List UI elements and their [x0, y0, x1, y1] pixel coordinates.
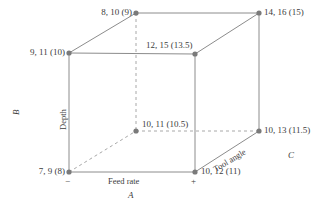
cube-solid-edges [69, 13, 259, 172]
cube-vertices [66, 10, 261, 174]
edge-label-depth: Depth [59, 109, 68, 130]
vertex-front-bottom-left[interactable] [66, 169, 71, 174]
sign-high-a: + [191, 177, 196, 186]
vertex-label-back-bottom-left: 10, 11 (10.5) [142, 120, 188, 129]
edge-depth-top-right [195, 13, 259, 54]
edge-depth-top-left [69, 13, 136, 53]
axis-label-c: C [288, 151, 294, 160]
edge-front-top [69, 53, 195, 54]
vertex-front-bottom-right[interactable] [192, 169, 197, 174]
vertex-back-bottom-left[interactable] [133, 128, 138, 133]
vertex-label-back-bottom-right: 10, 13 (11.5) [264, 126, 310, 135]
vertex-back-top-left[interactable] [133, 10, 138, 15]
vertex-label-front-bottom-left: 7, 9 (8) [0, 167, 65, 176]
edge-label-feed-rate: Feed rate [108, 177, 139, 186]
vertex-front-top-left[interactable] [66, 50, 71, 55]
vertex-label-back-top-right: 14, 16 (15) [264, 8, 304, 17]
edge-depth-bottom-left-hidden [69, 131, 136, 172]
figure-canvas: 8, 10 (9) 14, 16 (15) 9, 11 (10) 12, 15 … [0, 0, 326, 204]
cube-hidden-edges [69, 13, 259, 172]
axis-label-b: B [12, 110, 21, 116]
vertex-back-bottom-right[interactable] [256, 128, 261, 133]
vertex-label-front-top-left: 9, 11 (10) [0, 48, 65, 57]
sign-low-a: − [65, 177, 70, 186]
vertex-label-front-top-right: 12, 15 (13.5) [146, 41, 193, 50]
vertex-label-back-top-left: 8, 10 (9) [46, 8, 132, 17]
vertex-back-top-right[interactable] [256, 10, 261, 15]
vertex-front-top-right[interactable] [192, 51, 197, 56]
axis-label-a: A [128, 191, 134, 200]
